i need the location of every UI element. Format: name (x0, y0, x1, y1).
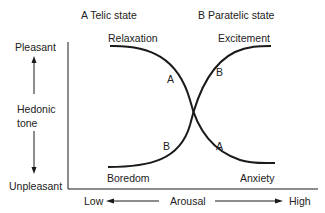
curve-a-upper-label: A (167, 73, 174, 85)
reversal-theory-diagram: A Telic state B Paratelic state Relaxati… (0, 0, 325, 213)
curve-a-lower-label: A (216, 140, 223, 152)
paratelic-state-title: B Paratelic state (198, 9, 274, 21)
right-arrow-icon (215, 199, 283, 204)
arousal-label: Arousal (170, 195, 206, 207)
curve-b-upper-label: B (216, 66, 223, 78)
excitement-label: Excitement (218, 32, 270, 44)
left-arrow-icon (106, 199, 159, 204)
low-label: Low (84, 195, 103, 207)
hedonic-label: Hedonic (17, 103, 56, 115)
pleasant-label: Pleasant (15, 41, 56, 53)
telic-state-title: A Telic state (81, 9, 137, 21)
down-arrow-icon (32, 131, 37, 174)
anxiety-label: Anxiety (240, 172, 274, 184)
curve-b-paratelic (108, 46, 271, 167)
relaxation-label: Relaxation (108, 32, 158, 44)
curve-b-lower-label: B (163, 140, 170, 152)
boredom-label: Boredom (107, 172, 150, 184)
unpleasant-label: Unpleasant (9, 180, 62, 192)
up-arrow-icon (32, 56, 37, 94)
tone-label: tone (17, 117, 37, 129)
high-label: High (289, 195, 311, 207)
curve-a-telic (110, 46, 275, 163)
